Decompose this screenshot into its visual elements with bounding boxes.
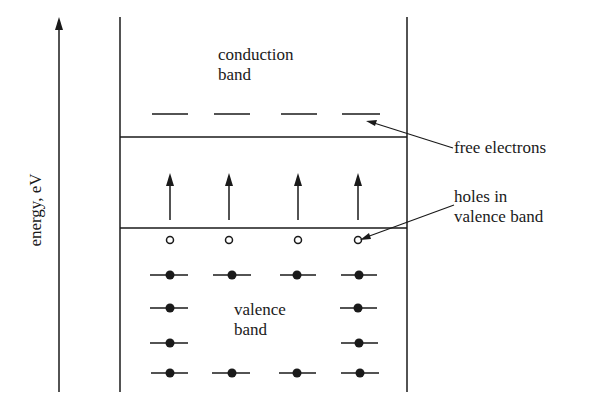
free-electrons-text: free electrons xyxy=(454,138,546,158)
holes-label: holes in valence band xyxy=(454,187,543,227)
electron xyxy=(213,271,251,280)
leader-arrow-icon xyxy=(360,233,371,240)
conduction-band-label-line2: band xyxy=(218,65,294,85)
holes-label-line1: holes in xyxy=(454,187,543,207)
excitation-arrow xyxy=(166,173,174,220)
electron xyxy=(212,369,250,378)
conduction-band-label: conduction band xyxy=(218,45,294,85)
energy-axis xyxy=(55,17,63,392)
hole-icon xyxy=(167,237,174,244)
electron-icon xyxy=(355,339,364,348)
excitation-arrow xyxy=(354,173,362,220)
valence-band-label-line2: band xyxy=(234,320,286,340)
excitation-arrow xyxy=(225,173,233,220)
electron-icon xyxy=(228,271,237,280)
conduction-band-label-line1: conduction xyxy=(218,45,294,65)
electron-icon xyxy=(356,369,365,378)
electron xyxy=(151,369,188,378)
arrow-up-icon xyxy=(225,173,233,186)
arrow-up-icon xyxy=(354,173,362,186)
hole-icon xyxy=(295,237,302,244)
electron-icon xyxy=(166,271,175,280)
electron-icon xyxy=(293,271,302,280)
electron xyxy=(280,271,316,280)
excitation-arrow xyxy=(294,173,302,220)
energy-axis-label: energy, eV xyxy=(26,173,46,246)
arrow-up-icon xyxy=(294,173,302,186)
electron xyxy=(150,271,188,280)
holes-leader xyxy=(364,205,454,238)
electron-icon xyxy=(228,369,237,378)
electron-icon xyxy=(166,369,175,378)
free-electrons-leader xyxy=(374,123,453,148)
holes xyxy=(167,237,362,244)
electron xyxy=(279,369,316,378)
electron-icon xyxy=(355,271,364,280)
free-electrons-label: free electrons xyxy=(454,138,546,158)
electron-icon xyxy=(166,304,175,313)
electron-icon xyxy=(293,369,302,378)
excitation-arrows xyxy=(166,173,362,220)
hole-icon xyxy=(355,237,362,244)
electron xyxy=(340,304,377,313)
holes-label-line2: valence band xyxy=(454,207,543,227)
valence-band-label: valence band xyxy=(234,300,286,340)
electron xyxy=(341,339,378,348)
hole-icon xyxy=(226,237,233,244)
electron-icon xyxy=(354,304,363,313)
electron xyxy=(150,304,188,313)
leader-arrow-icon xyxy=(366,120,377,126)
electron-icon xyxy=(166,339,175,348)
valence-band-label-line1: valence xyxy=(234,300,286,320)
electron xyxy=(150,339,188,348)
electron xyxy=(341,271,377,280)
arrow-up-icon xyxy=(166,173,174,186)
electron xyxy=(341,369,379,378)
energy-axis-arrow-icon xyxy=(55,17,63,30)
